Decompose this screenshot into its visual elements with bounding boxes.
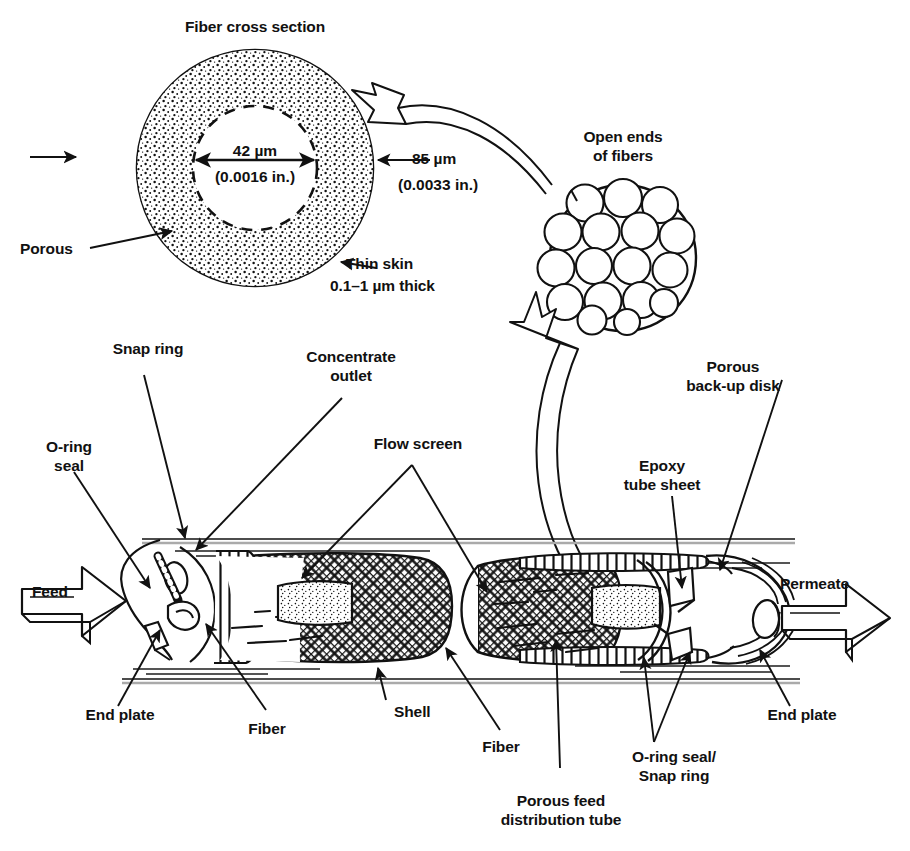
module-right-end: [462, 553, 799, 665]
porous-feed-tube-line2: distribution tube: [466, 811, 656, 828]
thin-skin-thickness: 0.1–1 µm thick: [330, 277, 435, 294]
leader-end-plate-right: [760, 650, 790, 706]
leader-oring-snapring-b: [644, 658, 654, 742]
concentrate-outlet-line2: outlet: [290, 367, 412, 384]
inner-diameter-inches: (0.0016 in.): [190, 168, 320, 186]
porous-backup-disk-line2: back-up disk: [648, 377, 818, 394]
leader-concentrate-outlet: [196, 398, 342, 550]
end-plate-left-label: End plate: [62, 706, 178, 723]
feed-arrow-glyph: [22, 567, 126, 643]
permeate-label: Permeate: [780, 575, 849, 592]
end-plate-right-label: End plate: [744, 706, 860, 723]
oring-snapring-line1: O-ring seal/: [604, 748, 744, 765]
thin-skin-label: Thin skin: [346, 255, 413, 272]
leader-porous-backup-disk: [720, 380, 782, 570]
fiber-left-label: Fiber: [228, 720, 306, 737]
o-ring-seal-line1: O-ring: [26, 438, 112, 455]
feed-label: Feed: [32, 583, 68, 600]
porous-feed-tube-line1: Porous feed: [480, 792, 642, 809]
open-ends-label-line1: Open ends: [552, 128, 694, 145]
epoxy-tube-sheet-line1: Epoxy: [606, 457, 718, 474]
open-ends-label-line2: of fibers: [552, 147, 694, 164]
concentrate-outlet-line1: Concentrate: [290, 348, 412, 365]
snap-ring-label: Snap ring: [92, 340, 204, 357]
flow-screen-label: Flow screen: [355, 435, 481, 452]
shell-label: Shell: [394, 703, 431, 720]
inner-diameter-value: 42 µm: [200, 142, 310, 160]
permeate-arrow-glyph: [782, 584, 890, 660]
porous-backup-disk-line1: Porous: [662, 358, 804, 375]
porous-label: Porous: [20, 240, 73, 257]
leader-snap-ring: [144, 375, 185, 538]
outer-diameter-value: 85 µm: [412, 150, 522, 168]
leader-fiber-right: [446, 648, 500, 730]
module-left-end: [121, 540, 215, 662]
fiber-bundle-drawing: [538, 179, 697, 335]
diagram-canvas: Fiber cross section 42 µm (0.0016 in.) 8…: [0, 0, 910, 851]
oring-snapring-line2: Snap ring: [604, 767, 744, 784]
fiber-right-label: Fiber: [462, 738, 540, 755]
epoxy-tube-sheet-line2: tube sheet: [594, 476, 730, 493]
o-ring-seal-line2: seal: [26, 457, 112, 474]
cross-section-title: Fiber cross section: [135, 18, 375, 35]
outer-diameter-inches: (0.0033 in.): [398, 176, 528, 194]
